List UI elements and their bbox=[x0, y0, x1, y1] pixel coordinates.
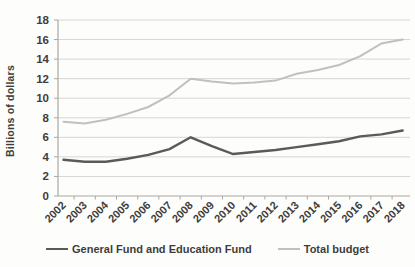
x-tick-label: 2018 bbox=[381, 199, 407, 225]
y-tick-label: 18 bbox=[36, 14, 49, 26]
x-tick-labels: 2002200320042005200620072008200920102011… bbox=[42, 198, 407, 224]
x-tick-label: 2002 bbox=[42, 199, 68, 225]
y-tick-label: 12 bbox=[36, 73, 49, 85]
x-tick-label: 2003 bbox=[63, 199, 89, 225]
x-tick-label: 2011 bbox=[233, 199, 258, 224]
line-chart-plot: 0246810121416182002200320042005200620072… bbox=[0, 0, 415, 240]
y-tick-label: 0 bbox=[43, 190, 49, 202]
x-tick-label: 2014 bbox=[297, 198, 323, 224]
chart-legend: General Fund and Education Fund Total bu… bbox=[0, 243, 415, 255]
y-tick-label: 8 bbox=[43, 112, 50, 124]
series-line-total-budget bbox=[64, 40, 403, 124]
x-tick-label: 2013 bbox=[275, 199, 301, 225]
x-tick-label: 2010 bbox=[212, 199, 238, 225]
y-tick-label: 14 bbox=[36, 53, 49, 65]
legend-item-total-budget: Total budget bbox=[278, 243, 369, 255]
legend-line-swatch-general-fund bbox=[46, 248, 68, 250]
y-tick-label: 2 bbox=[43, 170, 49, 182]
x-tick-label: 2017 bbox=[360, 199, 386, 225]
x-tick-label: 2004 bbox=[85, 198, 111, 224]
y-tick-label: 16 bbox=[36, 34, 49, 46]
y-tick-labels: 024681012141618 bbox=[36, 14, 49, 202]
x-tick-label: 2015 bbox=[318, 199, 344, 225]
x-tick-label: 2007 bbox=[148, 199, 174, 225]
legend-label-general-fund: General Fund and Education Fund bbox=[72, 243, 252, 255]
budget-line-chart-figure: Billions of dollars 02468101214161820022… bbox=[0, 0, 415, 267]
x-tick-label: 2016 bbox=[339, 199, 365, 225]
x-tick-label: 2009 bbox=[191, 199, 217, 225]
x-tick-label: 2005 bbox=[106, 199, 132, 225]
legend-line-swatch-total-budget bbox=[278, 248, 300, 250]
legend-label-total-budget: Total budget bbox=[304, 243, 369, 255]
y-tick-label: 4 bbox=[43, 151, 50, 163]
y-tick-label: 10 bbox=[36, 92, 49, 104]
legend-item-general-fund: General Fund and Education Fund bbox=[46, 243, 252, 255]
gridlines bbox=[54, 20, 410, 196]
x-tick-label: 2012 bbox=[254, 199, 280, 225]
x-tick-label: 2006 bbox=[127, 199, 153, 225]
y-tick-label: 6 bbox=[43, 131, 49, 143]
x-tick-label: 2008 bbox=[169, 199, 195, 225]
